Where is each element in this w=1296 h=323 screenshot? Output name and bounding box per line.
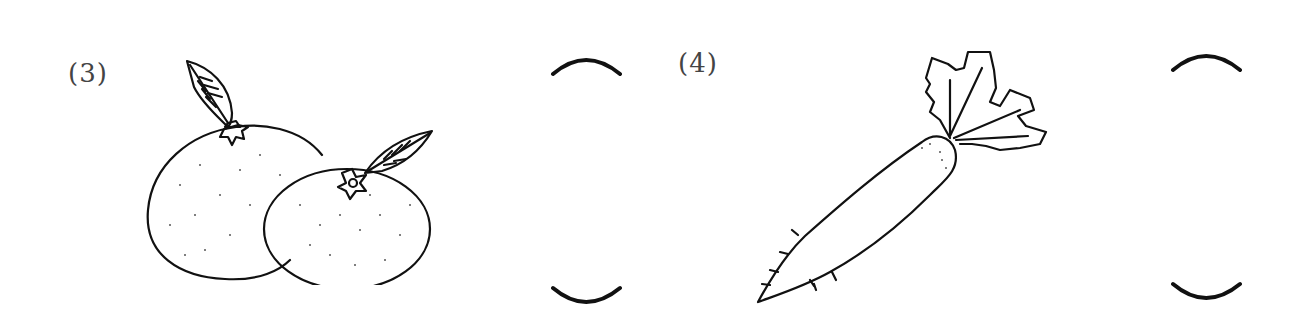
- item-number-3: (3): [68, 58, 108, 88]
- answer-bracket-3[interactable]: [548, 52, 628, 310]
- mandarin-oranges-illustration: [140, 55, 440, 285]
- item-number-4: (4): [678, 48, 718, 78]
- daikon-radish-illustration: [750, 40, 1060, 310]
- answer-bracket-4[interactable]: [1168, 50, 1248, 308]
